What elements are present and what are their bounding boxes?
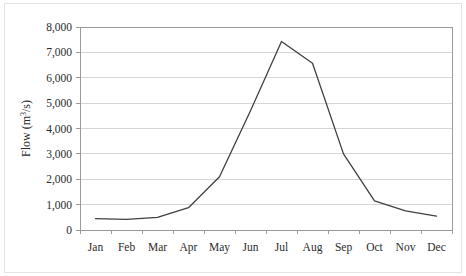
x-axis-tick-label: Sep	[335, 241, 353, 254]
y-axis-tick-label: 7,000	[46, 46, 72, 59]
x-axis-tick-label: Jan	[88, 241, 104, 253]
x-axis-tick-label: Aug	[303, 241, 323, 254]
x-axis-tick-label: Nov	[396, 241, 416, 253]
x-axis-tick-label: Dec	[427, 241, 446, 253]
x-axis-tick-label: Feb	[118, 241, 136, 253]
x-axis-tick-label: Jun	[243, 241, 259, 253]
x-axis-tick-label: May	[209, 241, 230, 254]
x-axis-tick-label: Apr	[180, 241, 198, 254]
x-axis-tick-label: Oct	[366, 241, 383, 253]
y-axis-tick-label: 4,000	[46, 123, 72, 136]
x-axis-tick-label: Jul	[275, 241, 288, 253]
y-axis-tick-label: 6,000	[46, 72, 72, 85]
y-axis-title: Flow (m3/s)	[19, 100, 33, 157]
y-axis-tick-label: 2,000	[46, 173, 72, 186]
flow-line-chart: 01,0002,0003,0004,0005,0006,0007,0008,00…	[0, 0, 466, 276]
y-axis-tick-label: 8,000	[46, 21, 72, 34]
y-axis-tick-label: 1,000	[46, 199, 72, 212]
chart-figure: 01,0002,0003,0004,0005,0006,0007,0008,00…	[0, 0, 466, 276]
y-axis-tick-label: 5,000	[46, 97, 72, 110]
x-axis-tick-label: Mar	[148, 241, 167, 253]
y-axis-tick-label: 3,000	[46, 148, 72, 161]
y-axis-tick-label: 0	[66, 224, 72, 236]
